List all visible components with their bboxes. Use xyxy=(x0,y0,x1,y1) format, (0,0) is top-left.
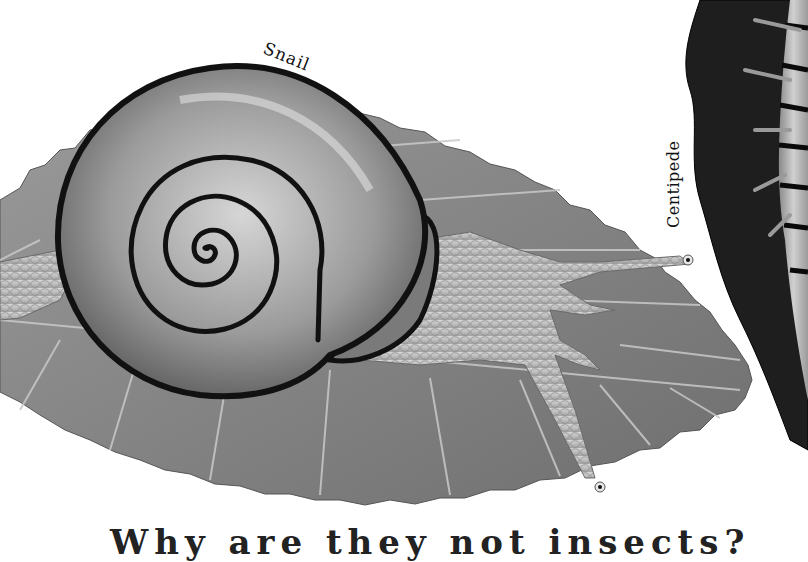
centipede-label: Centipede xyxy=(664,141,683,228)
snail-shell xyxy=(58,66,437,396)
eye-lower xyxy=(598,485,602,489)
eye-upper xyxy=(686,258,690,262)
caption: Why are they not insects? xyxy=(110,522,750,562)
shell-apex xyxy=(204,245,210,251)
